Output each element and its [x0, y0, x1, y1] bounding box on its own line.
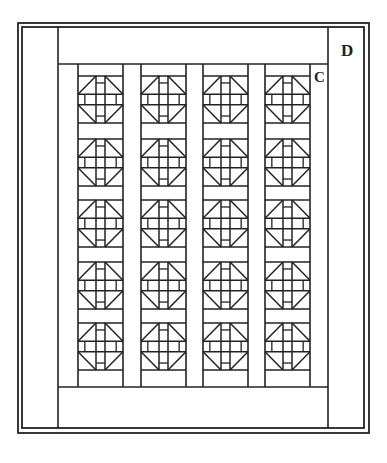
inner-frame — [22, 27, 364, 428]
label-border-d: D — [341, 41, 353, 61]
label-sashing-c: C — [314, 69, 325, 86]
quilt-diagram — [0, 0, 387, 463]
